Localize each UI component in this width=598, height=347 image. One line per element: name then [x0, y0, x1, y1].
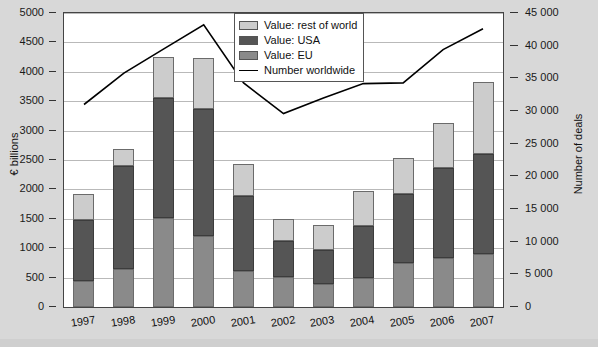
- left-axis-tick-label: 4000: [0, 66, 44, 77]
- chart-figure: 0500100015002000250030003500400045005000…: [0, 0, 598, 347]
- legend-item-number-worldwide: Number worldwide: [239, 63, 357, 77]
- right-axis-tick-label: 40 000: [525, 40, 559, 51]
- legend-label-number-worldwide: Number worldwide: [264, 64, 355, 76]
- legend-item-rest-of-world: Value: rest of world: [239, 18, 357, 32]
- x-axis-tick-label: 2001: [222, 312, 263, 330]
- legend-label-rest-of-world: Value: rest of world: [264, 19, 357, 31]
- x-axis-tick-label: 2006: [421, 312, 462, 330]
- right-axis: 05 00010 00015 00020 00025 00030 00035 0…: [510, 12, 570, 308]
- right-axis-title: Number of deals: [572, 84, 584, 224]
- left-axis-tick-label: 1500: [0, 213, 44, 224]
- legend-item-usa: Value: USA: [239, 33, 357, 47]
- right-axis-tickmark: [510, 45, 518, 46]
- left-axis-tick-label: 5000: [0, 7, 44, 18]
- right-axis-tickmark: [510, 110, 518, 111]
- x-axis-tick-label: 1997: [62, 312, 103, 330]
- x-axis-tick-label: 2004: [342, 312, 383, 330]
- left-axis-tick-label: 2500: [0, 154, 44, 165]
- right-axis-tick-label: 25 000: [525, 138, 559, 149]
- legend-swatch-eu: [239, 51, 258, 60]
- left-axis-tickmark: [49, 159, 56, 160]
- chart-legend: Value: rest of world Value: USA Value: E…: [234, 13, 364, 82]
- left-axis-tick-label: 1000: [0, 242, 44, 253]
- legend-swatch-rest-of-world: [239, 21, 258, 30]
- x-axis-tick-label: 1999: [142, 312, 183, 330]
- right-axis-tickmark: [510, 273, 518, 274]
- right-axis-tickmark: [510, 208, 518, 209]
- left-axis-tickmark: [49, 130, 56, 131]
- right-axis-tickmark: [510, 77, 518, 78]
- right-axis-tickmark: [510, 241, 518, 242]
- bottom-edge-strip: [0, 339, 598, 347]
- left-axis-tickmark: [49, 218, 56, 219]
- right-axis-tick-label: 45 000: [525, 7, 559, 18]
- right-axis-tickmark: [510, 306, 518, 307]
- left-axis-title: € billions: [8, 94, 20, 214]
- legend-label-eu: Value: EU: [264, 49, 313, 61]
- left-axis-tickmark: [49, 188, 56, 189]
- right-axis-tick-label: 20 000: [525, 170, 559, 181]
- left-axis-tickmark: [49, 306, 56, 307]
- left-axis-tickmark: [49, 41, 56, 42]
- right-axis-tick-label: 5 000: [525, 268, 553, 279]
- chart-title: [120, 0, 420, 4]
- left-axis-tick-label: 0: [0, 301, 44, 312]
- right-axis-tickmark: [510, 143, 518, 144]
- x-axis-tick-label: 2007: [461, 312, 502, 330]
- x-axis-tick-label: 1998: [102, 312, 143, 330]
- x-axis: 1997199819992000200120022003200420052006…: [63, 312, 504, 336]
- right-axis-tickmark: [510, 12, 518, 13]
- x-axis-tick-label: 2005: [382, 312, 423, 330]
- right-axis-tick-label: 15 000: [525, 203, 559, 214]
- left-axis-tick-label: 3000: [0, 125, 44, 136]
- legend-swatch-usa: [239, 36, 258, 45]
- left-axis-tick-label: 500: [0, 272, 44, 283]
- right-axis-tick-label: 30 000: [525, 105, 559, 116]
- left-axis-tickmark: [49, 12, 56, 13]
- left-axis-tickmark: [49, 71, 56, 72]
- x-axis-tick-label: 2000: [182, 312, 223, 330]
- left-axis-tick-label: 2000: [0, 183, 44, 194]
- right-axis-tickmark: [510, 175, 518, 176]
- legend-line-number-worldwide: [239, 66, 258, 75]
- right-axis-tick-label: 0: [525, 301, 531, 312]
- left-axis-tickmark: [49, 247, 56, 248]
- left-axis-tickmark: [49, 277, 56, 278]
- left-axis-tick-label: 3500: [0, 95, 44, 106]
- x-axis-tick-label: 2003: [302, 312, 343, 330]
- left-axis-tickmark: [49, 100, 56, 101]
- legend-item-eu: Value: EU: [239, 48, 357, 62]
- left-axis-tick-label: 4500: [0, 36, 44, 47]
- legend-label-usa: Value: USA: [264, 34, 320, 46]
- x-axis-tick-label: 2002: [262, 312, 303, 330]
- right-axis-tick-label: 10 000: [525, 236, 559, 247]
- right-axis-tick-label: 35 000: [525, 72, 559, 83]
